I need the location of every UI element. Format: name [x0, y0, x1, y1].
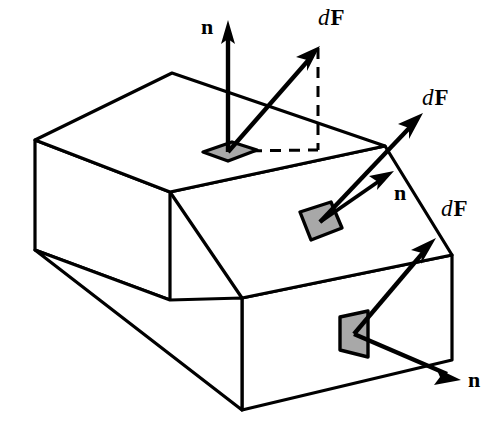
label-normal-slanted: n [394, 182, 406, 204]
label-force-slanted: dF [422, 86, 449, 109]
label-force-top-F: F [331, 5, 345, 30]
label-normal-top: n [201, 16, 213, 38]
label-force-slanted-d: d [422, 85, 435, 110]
label-force-slanted-F: F [435, 85, 449, 110]
label-force-front: dF [441, 197, 468, 220]
chamfered-block [35, 73, 452, 410]
label-normal-front: n [468, 369, 480, 391]
label-force-front-F: F [454, 196, 468, 221]
normal-vector-front-arrowhead [434, 368, 461, 385]
label-force-top-d: d [318, 5, 331, 30]
diagram-canvas [0, 0, 499, 439]
label-force-top: dF [318, 6, 345, 29]
label-force-front-d: d [441, 196, 454, 221]
surface-traction-diagram: n dF dF n dF n [0, 0, 499, 439]
